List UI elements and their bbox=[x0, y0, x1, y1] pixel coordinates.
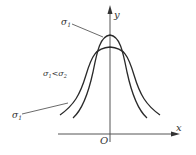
sigma-relation-annotation: σ1<σ2 bbox=[43, 69, 67, 79]
wide-curve-label-sub: 1 bbox=[18, 114, 22, 121]
top-label-leader bbox=[72, 24, 103, 37]
narrow-curve-label-sub: 1 bbox=[67, 21, 71, 28]
narrow-curve-label: σ1 bbox=[61, 17, 71, 28]
bottom-label-leader bbox=[22, 103, 68, 114]
x-axis-label: x bbox=[176, 122, 182, 133]
wide-curve-label: σ1 bbox=[12, 110, 22, 121]
y-axis-arrow-icon bbox=[108, 5, 113, 14]
relation-operator: < bbox=[52, 69, 59, 78]
y-axis-label: y bbox=[113, 9, 120, 20]
relation-sub-b: 2 bbox=[63, 73, 67, 79]
normal-distribution-diagram: y x O σ1 σ1<σ2 σ1 bbox=[0, 0, 196, 155]
origin-label: O bbox=[100, 135, 108, 146]
